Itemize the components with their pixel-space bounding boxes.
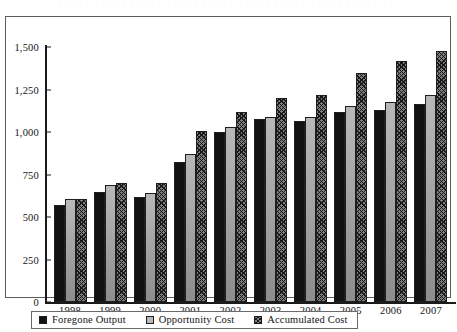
bar-1998-series0 — [54, 205, 65, 302]
bar-groups — [46, 47, 456, 302]
bar-2000-series0 — [134, 197, 145, 302]
bar-group-2007 — [412, 47, 450, 302]
legend-label-1: Opportunity Cost — [159, 314, 235, 325]
y-tick-label: 500 — [23, 212, 46, 223]
bar-group-2001 — [171, 47, 209, 302]
bar-group-1998 — [51, 47, 89, 302]
chart-page: 02505007501,0001,2501,500 19981999200020… — [0, 0, 457, 332]
chart-frame: 02505007501,0001,2501,500 19981999200020… — [5, 16, 451, 298]
crosshatch-swatch — [254, 316, 262, 324]
bar-group-2000 — [131, 47, 169, 302]
x-axis-line — [45, 302, 456, 304]
bar-2007-series0 — [414, 104, 425, 302]
legend-item-0: Foregone Output — [39, 314, 126, 325]
legend-item-2: Accumulated Cost — [254, 314, 347, 325]
bar-group-2006 — [372, 47, 410, 302]
bar-2006-series0 — [374, 110, 385, 302]
bar-2002-series1 — [225, 127, 236, 302]
bar-2001-series0 — [174, 162, 185, 302]
bar-2004-series2 — [316, 95, 327, 302]
bar-1999-series1 — [105, 185, 116, 302]
legend-label-2: Accumulated Cost — [267, 314, 347, 325]
bar-2001-series2 — [196, 131, 207, 302]
bar-1998-series1 — [65, 199, 76, 302]
bar-2006-series2 — [396, 61, 407, 302]
y-tick-label: 1,500 — [14, 42, 46, 53]
legend-label-0: Foregone Output — [52, 314, 126, 325]
bar-2003-series2 — [276, 98, 287, 302]
bar-2000-series1 — [145, 193, 156, 302]
bar-1998-series2 — [76, 199, 87, 302]
y-tick-label: 750 — [23, 169, 46, 180]
bar-2004-series1 — [305, 117, 316, 302]
bar-2002-series2 — [236, 112, 247, 302]
bar-2007-series1 — [425, 95, 436, 302]
light-gray-swatch — [146, 316, 154, 324]
bar-2005-series1 — [345, 106, 356, 302]
bar-group-2003 — [252, 47, 290, 302]
bar-1999-series2 — [116, 183, 127, 302]
y-tick-label: 0 — [34, 297, 46, 308]
bar-2005-series0 — [334, 112, 345, 302]
x-tick-label-2006: 2006 — [372, 305, 410, 323]
bar-group-2005 — [332, 47, 370, 302]
bar-group-1999 — [91, 47, 129, 302]
bar-2003-series0 — [254, 119, 265, 302]
bar-group-2004 — [292, 47, 330, 302]
bar-2003-series1 — [265, 117, 276, 302]
bar-2005-series2 — [356, 73, 367, 302]
bar-2006-series1 — [385, 102, 396, 302]
bar-2002-series0 — [214, 132, 225, 302]
plot-area: 02505007501,0001,2501,500 — [46, 47, 456, 302]
bar-2007-series2 — [436, 51, 447, 302]
bar-1999-series0 — [94, 192, 105, 302]
y-tick-label: 1,250 — [14, 84, 46, 95]
bar-2000-series2 — [156, 183, 167, 302]
bar-group-2002 — [211, 47, 249, 302]
chart-legend: Foregone OutputOpportunity CostAccumulat… — [31, 311, 358, 329]
x-tick-label-2007: 2007 — [412, 305, 450, 323]
bar-2004-series0 — [294, 121, 305, 302]
solid-black-swatch — [39, 316, 47, 324]
bar-2001-series1 — [185, 154, 196, 302]
y-tick-label: 250 — [23, 254, 46, 265]
legend-item-1: Opportunity Cost — [146, 314, 235, 325]
scan-artifact-strip — [0, 0, 457, 14]
y-tick-label: 1,000 — [14, 127, 46, 138]
